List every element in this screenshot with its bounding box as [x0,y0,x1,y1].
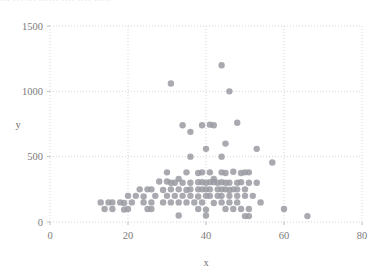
y-axis-title: y [15,119,21,130]
data-point [199,169,205,175]
data-point [129,199,135,205]
data-point [183,199,189,205]
data-point [234,119,240,125]
data-point [187,153,193,159]
data-point [218,153,224,159]
y-tick-label: 1500 [22,21,43,32]
data-point [148,186,154,192]
data-point [195,193,201,199]
data-point [101,206,107,212]
x-axis-title: x [203,257,209,268]
data-point [156,178,162,184]
data-point [160,187,166,193]
data-point [187,180,193,186]
data-point [179,122,185,128]
data-point [199,122,205,128]
data-point [242,193,248,199]
data-point [168,199,174,205]
data-point [125,206,131,212]
data-point [164,169,170,175]
data-point [98,199,104,205]
data-point [187,193,193,199]
data-point [226,88,232,94]
data-point [226,193,232,199]
data-point [203,212,209,218]
data-point [183,169,189,175]
data-point [168,80,174,86]
data-point [203,206,209,212]
x-tick-label: 40 [201,230,212,241]
y-tick-label: 1000 [22,86,43,97]
data-point [179,180,185,186]
data-point [250,193,256,199]
data-point [246,169,252,175]
data-point [238,179,244,185]
data-point [172,193,178,199]
data-point [176,186,182,192]
scatter-plot-screen: ··· ··· ··· ······ ···· ···· ····· 05001… [0,0,390,278]
data-point [140,193,146,199]
data-point [222,170,228,176]
data-points-group [98,62,311,219]
data-point [207,193,213,199]
y-tick-label: 0 [38,217,43,228]
data-point [222,140,228,146]
data-point [207,169,213,175]
data-point [137,186,143,192]
data-point [160,199,166,205]
data-point [234,186,240,192]
data-point [121,200,127,206]
x-tick-label: 60 [279,230,290,241]
data-point [148,199,154,205]
data-point [211,200,217,206]
data-point [234,199,240,205]
data-point [133,193,139,199]
data-point [246,180,252,186]
data-point [234,193,240,199]
data-point [199,199,205,205]
data-point [187,186,193,192]
data-point [254,146,260,152]
data-point [242,186,248,192]
data-point [168,186,174,192]
data-point [226,180,232,186]
x-tick-label: 80 [357,230,368,241]
data-point [195,206,201,212]
data-point [218,193,224,199]
data-point [218,199,224,205]
data-point [211,122,217,128]
data-point [140,199,146,205]
data-point [176,212,182,218]
y-tick-label: 500 [27,151,43,162]
data-point [230,168,236,174]
data-point [191,199,197,205]
data-point [238,206,244,212]
data-point [187,129,193,135]
x-tick-label: 20 [123,230,134,241]
data-point [218,62,224,68]
data-point [207,186,213,192]
data-point [254,180,260,186]
data-point [230,206,236,212]
data-point [125,193,131,199]
data-point [203,146,209,152]
data-point [304,213,310,219]
data-point [176,199,182,205]
data-point [164,193,170,199]
x-tick-label: 0 [47,230,52,241]
data-point [246,206,252,212]
data-point [281,206,287,212]
scatter-chart: 050010001500020406080xy [0,0,390,278]
data-point [109,206,115,212]
chart-container: 050010001500020406080xy [0,0,390,278]
data-point [257,199,263,205]
data-point [109,199,115,205]
data-point [269,159,275,165]
data-point [246,213,252,219]
data-point [148,206,154,212]
data-point [226,199,232,205]
data-point [179,193,185,199]
data-point [172,180,178,186]
data-point [152,193,158,199]
data-point [222,206,228,212]
